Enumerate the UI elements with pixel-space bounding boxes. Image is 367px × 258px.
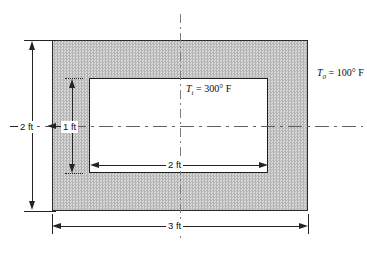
arrowhead-up-icon [29, 41, 35, 50]
leader-arrowhead-left-icon [47, 123, 56, 129]
arrowhead-left-icon [52, 223, 61, 229]
outer-temp-value: 100 [337, 67, 352, 78]
inner-temperature-label: Ti = 300° F [186, 84, 231, 94]
outer-temp-unit: ° F [352, 67, 364, 78]
inner-temp-equals: = [196, 83, 202, 94]
outer-temp-subscript: 0 [323, 73, 327, 81]
arrowhead-right-icon [259, 162, 268, 168]
arrowhead-down-icon [69, 164, 75, 173]
vertical-centerline [180, 14, 181, 242]
inner-temp-value: 300 [204, 83, 219, 94]
extension-line-bottom [24, 211, 56, 212]
outer-temperature-label: T0 = 100° F [317, 68, 364, 78]
leader-dash [10, 126, 18, 127]
extension-line-bottom [65, 173, 83, 174]
dimension-label-inner-width: 2 ft [166, 159, 183, 171]
arrowhead-down-icon [29, 201, 35, 210]
dimension-label-inner-height: 1 ft [61, 121, 78, 133]
arrowhead-right-icon [299, 223, 308, 229]
outer-temp-equals: = [329, 67, 335, 78]
inner-temp-unit: ° F [219, 83, 231, 94]
dimension-label-outer-height: 2 ft [18, 121, 35, 133]
extension-line-right [308, 214, 309, 234]
arrowhead-up-icon [69, 79, 75, 88]
dimension-label-outer-width: 3 ft [166, 220, 183, 232]
engineering-figure: 2 ft 1 ft 2 ft 3 ft Ti = 300° F T0 = [0, 0, 367, 258]
arrowhead-left-icon [90, 162, 99, 168]
inner-temp-subscript: i [192, 89, 194, 97]
